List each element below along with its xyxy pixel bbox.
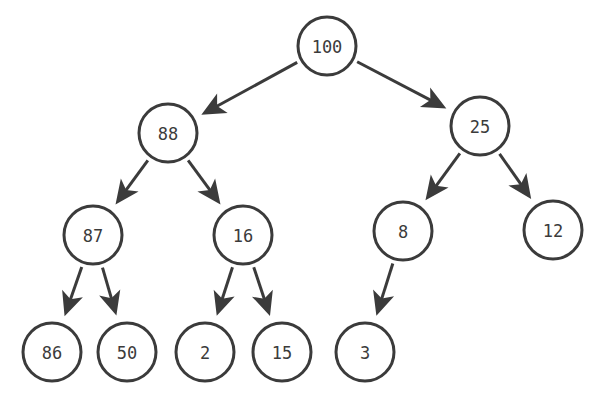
tree-node-88: 88 (139, 104, 197, 162)
tree-node-87: 87 (64, 206, 122, 264)
node-label: 16 (233, 226, 253, 246)
tree-node-86: 86 (23, 323, 81, 381)
arrowhead-icon (508, 173, 531, 199)
nodes-layer: 1008825871681286502153 (23, 17, 582, 381)
node-label: 12 (543, 221, 563, 241)
tree-diagram: 1008825871681286502153 (0, 0, 608, 398)
edge-n25-n8 (434, 153, 460, 189)
node-label: 15 (272, 343, 292, 363)
tree-node-2: 2 (176, 323, 234, 381)
tree-node-100: 100 (298, 17, 356, 75)
node-label: 3 (360, 343, 370, 363)
edges-layer (62, 62, 531, 316)
edge-n100-n88 (214, 62, 298, 108)
edge-n8-n3 (381, 263, 393, 302)
node-label: 87 (83, 226, 103, 246)
edge-n88-n87 (124, 160, 148, 193)
edge-n88-n16 (188, 160, 212, 193)
tree-node-8: 8 (374, 202, 432, 260)
node-label: 100 (312, 37, 343, 57)
edge-n87-n86 (69, 267, 82, 303)
edge-n25-n12 (500, 154, 524, 188)
node-label: 8 (398, 222, 408, 242)
tree-node-50: 50 (98, 323, 156, 381)
node-label: 50 (117, 343, 137, 363)
node-label: 2 (200, 343, 210, 363)
tree-node-12: 12 (524, 201, 582, 259)
tree-node-15: 15 (253, 323, 311, 381)
arrowhead-icon (425, 174, 448, 200)
edge-n100-n25 (357, 62, 434, 102)
arrowhead-icon (197, 179, 220, 205)
node-label: 25 (470, 117, 490, 137)
tree-node-3: 3 (336, 323, 394, 381)
tree-node-16: 16 (214, 206, 272, 264)
node-label: 88 (158, 124, 178, 144)
arrowhead-icon (116, 179, 139, 205)
tree-node-25: 25 (451, 97, 509, 155)
node-label: 86 (42, 343, 62, 363)
